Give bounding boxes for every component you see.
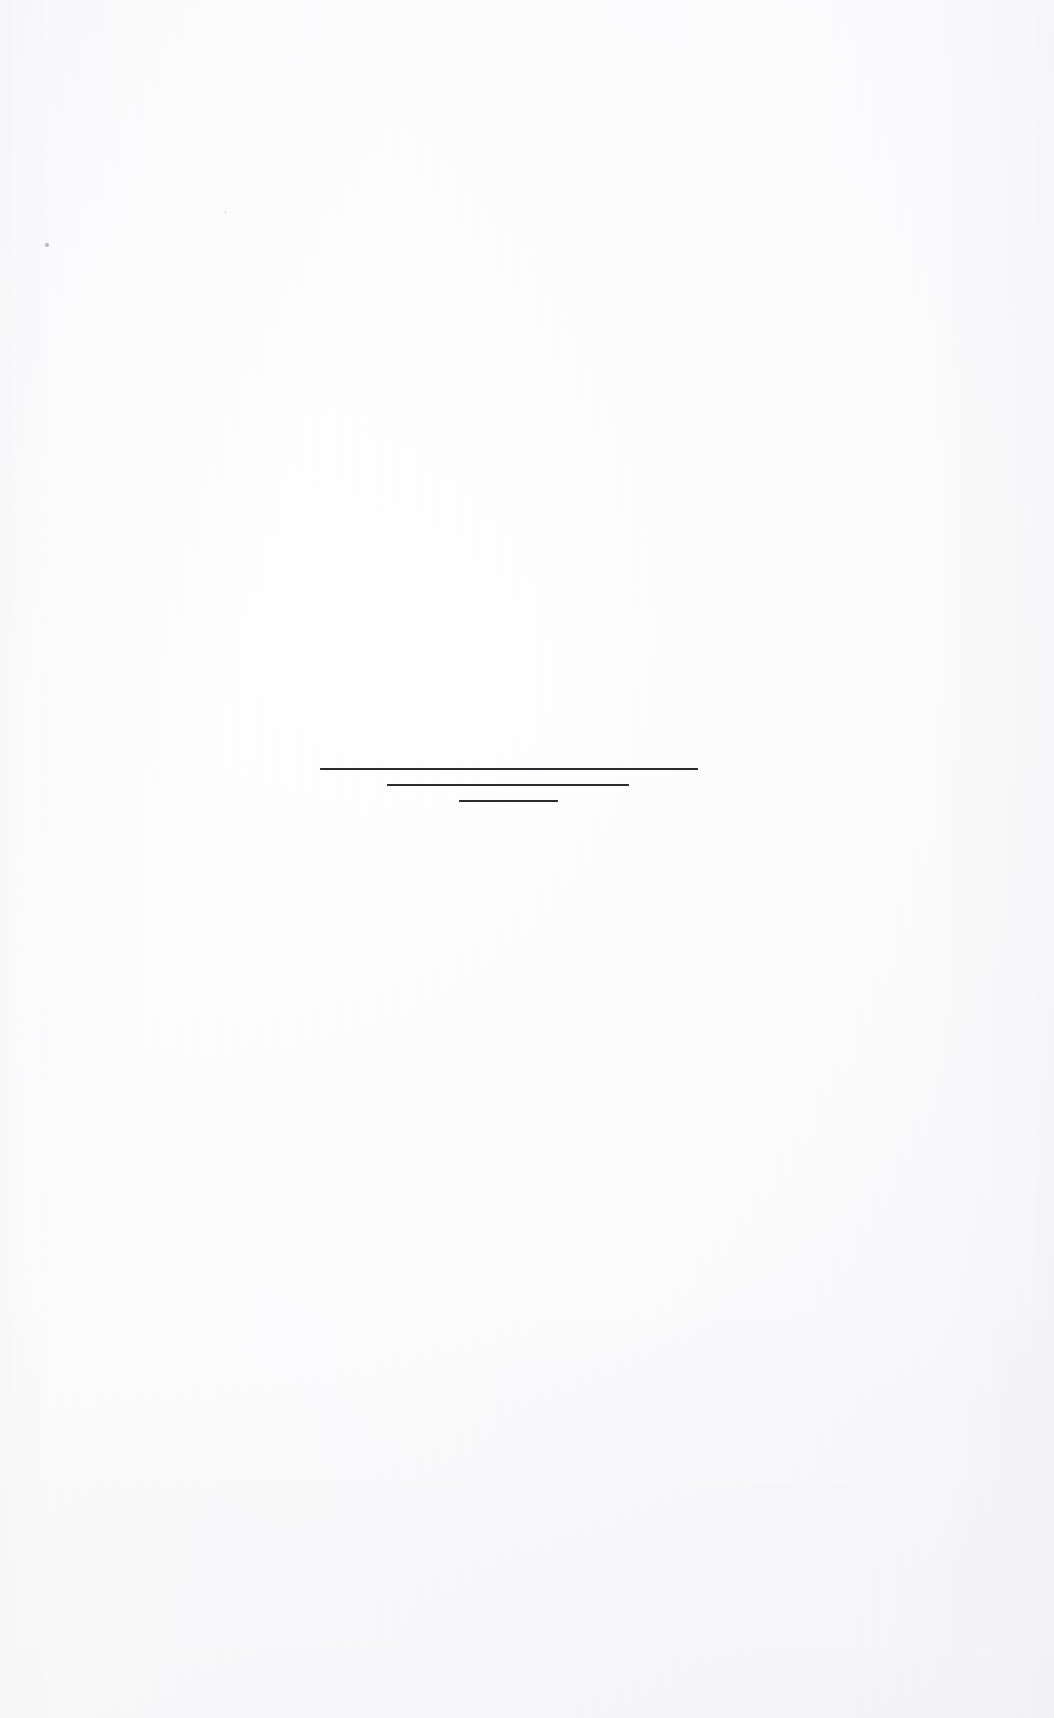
scanned-document-page [0, 0, 1054, 1718]
horizontal-rule-middle [387, 784, 629, 786]
horizontal-rule-top [320, 768, 698, 770]
horizontal-rule-bottom [459, 800, 558, 802]
scan-speck-artifact-faint [224, 211, 227, 214]
scan-banding-texture [0, 0, 1054, 1718]
scan-vignette-overlay [0, 0, 1054, 1718]
scan-speck-artifact [45, 243, 49, 247]
